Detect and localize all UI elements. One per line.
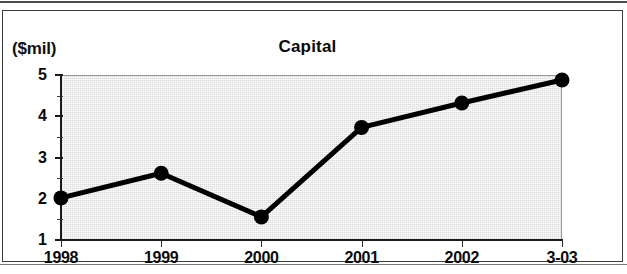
y-minor-tick-mark <box>57 178 63 179</box>
page-top-rule <box>0 1 627 3</box>
chart-title: Capital <box>3 37 627 57</box>
y-tick-mark <box>55 157 63 159</box>
x-tick-mark <box>462 240 463 247</box>
y-tick-label: 3 <box>7 149 47 167</box>
y-tick-mark <box>55 198 63 200</box>
plot-area <box>61 75 562 240</box>
page-bottom-rule <box>0 264 627 265</box>
y-minor-tick-mark <box>57 96 63 97</box>
x-tick-mark <box>362 240 363 247</box>
x-tick-mark <box>61 240 62 247</box>
x-tick-mark <box>562 240 563 247</box>
y-tick-label: 2 <box>7 190 47 208</box>
y-tick-label: 5 <box>7 66 47 84</box>
x-axis-line <box>60 239 563 241</box>
y-tick-label: 4 <box>7 107 47 125</box>
y-minor-tick-mark <box>57 219 63 220</box>
chart-title-text: Capital <box>278 37 336 56</box>
chart-figure-frame: ($mil) Capital 12345 1998199920002001200… <box>2 10 623 262</box>
y-tick-mark <box>55 74 63 76</box>
x-tick-mark <box>261 240 262 247</box>
y-tick-mark <box>55 115 63 117</box>
y-minor-tick-mark <box>57 137 63 138</box>
x-tick-mark <box>161 240 162 247</box>
y-tick-label: 1 <box>7 231 47 249</box>
